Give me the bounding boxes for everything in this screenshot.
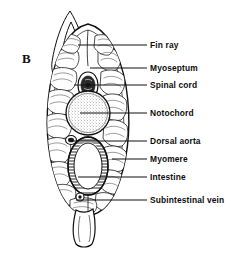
- label-myomere: Myomere: [150, 155, 188, 163]
- label-fin-ray: Fin ray: [150, 41, 179, 49]
- label-myoseptum: Myoseptum: [150, 64, 198, 72]
- label-spinal-cord: Spinal cord: [150, 81, 197, 89]
- ventral-fin: [73, 209, 95, 247]
- label-dorsal-aorta: Dorsal aorta: [150, 137, 201, 145]
- figure-panel: B: [0, 0, 247, 253]
- anatomical-drawing: [0, 0, 247, 253]
- label-intestine: Intestine: [150, 173, 186, 181]
- label-notochord: Notochord: [150, 109, 194, 117]
- label-subintestinal-vein: Subintestinal vein: [150, 196, 224, 204]
